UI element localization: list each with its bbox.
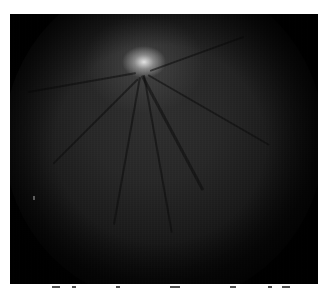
fundus-image-frame [10, 14, 318, 284]
cropped-caption [0, 286, 328, 294]
vignette [10, 14, 318, 284]
